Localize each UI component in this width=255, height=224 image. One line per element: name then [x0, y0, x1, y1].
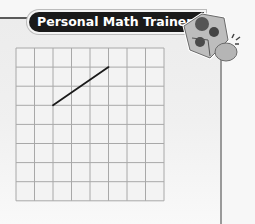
grid-lines: [16, 48, 164, 201]
math-trainer-dice-mascot-icon: [180, 10, 246, 66]
page-title: Personal Math Trainer: [29, 12, 204, 32]
